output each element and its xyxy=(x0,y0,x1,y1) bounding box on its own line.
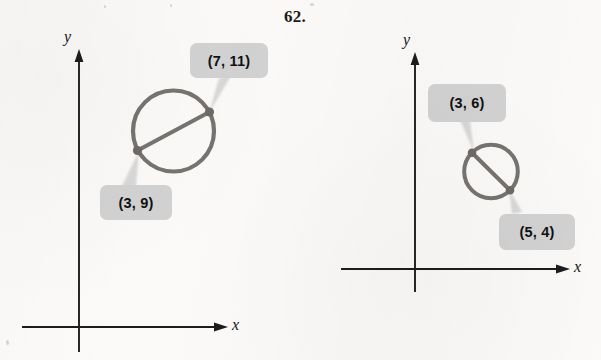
left-x-axis xyxy=(22,322,228,331)
callout-point-5-4: (5, 4) xyxy=(499,214,575,250)
left-x-axis-label: x xyxy=(232,316,239,334)
callout-point-5-4-text: (5, 4) xyxy=(519,224,554,240)
exercise-number: 62. xyxy=(284,7,306,27)
scan-speck xyxy=(170,4,172,7)
callout-point-3-6: (3, 6) xyxy=(428,84,506,122)
callout-point-7-11: (7, 11) xyxy=(190,43,268,78)
right-y-axis-label: y xyxy=(403,31,410,49)
right-y-axis xyxy=(411,52,420,292)
callout-point-3-9: (3, 9) xyxy=(100,185,172,220)
right-x-axis xyxy=(341,264,570,273)
scanned-textbook-page: 62. y x y x (7, 11) (3, 9) (3, 6) (5, 4) xyxy=(0,0,601,360)
figures-canvas xyxy=(0,0,601,360)
callout-point-7-11-text: (7, 11) xyxy=(208,52,251,68)
right-circle-shape xyxy=(464,145,518,199)
callout-point-3-6-text: (3, 6) xyxy=(449,95,484,111)
scan-speck xyxy=(104,5,106,8)
left-circle-shape xyxy=(133,91,214,172)
left-y-axis xyxy=(75,49,84,352)
right-x-axis-label: x xyxy=(574,258,581,276)
left-y-axis-label: y xyxy=(64,28,71,46)
callout-point-3-9-text: (3, 9) xyxy=(118,194,153,210)
scan-speck xyxy=(310,3,314,6)
scan-speck xyxy=(6,340,9,345)
